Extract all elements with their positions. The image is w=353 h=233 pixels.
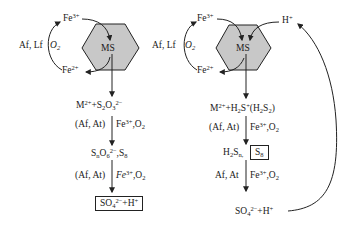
right-step2-boxed-s8: S8 — [250, 145, 269, 160]
sulfide-oxidation-diagram: Fe3+ Af, Lf O2 Fe2+ MS Af, Lf M2++S2O32−… — [0, 0, 353, 233]
right-proton-label: H+ — [282, 15, 293, 26]
right-fe2-label: Fe2+ — [197, 65, 213, 76]
left-step2-product: SnO62−,S8 — [91, 148, 128, 159]
left-fe3-label: Fe3+ — [63, 13, 79, 24]
left-mineral-label: MS — [101, 43, 115, 54]
right-iron-organisms-label: Af, Lf — [152, 40, 176, 51]
left-iron-organisms-label: Af, Lf — [19, 40, 43, 51]
right-fe3-label: Fe3+ — [197, 13, 213, 24]
right-o2-label: O2 — [185, 40, 195, 51]
right-step1-product: M2++H2S+(H2S2) — [210, 103, 275, 114]
left-fe2-label: Fe2+ — [62, 65, 78, 76]
right-final-product: SO42−+H+ — [235, 206, 273, 217]
right-proton-recycle-arrow — [288, 24, 337, 211]
right-step1-organisms: (Af, At) — [209, 122, 239, 133]
left-step2-organisms: (Af, At) — [75, 170, 105, 181]
left-o2-label: O2 — [50, 40, 60, 51]
right-step2-oxidants: Fe3+,O2 — [250, 170, 279, 181]
right-step2-organisms: Af, At — [215, 170, 239, 181]
left-final-product: SO42−+H+ — [95, 196, 143, 211]
right-step1-oxidants: Fe3+,O2 — [250, 122, 279, 133]
left-step1-product: M2++S2O32− — [76, 100, 122, 111]
right-step2-product: H2Sn, — [223, 147, 243, 158]
diagram-graphics — [0, 0, 353, 233]
left-step2-oxidants: Fe3+,O2 — [116, 170, 145, 181]
right-mineral-label: MS — [236, 43, 250, 54]
left-step1-oxidants: Fe3+,O2 — [116, 119, 145, 130]
left-step1-organisms: (Af, At) — [75, 119, 105, 130]
